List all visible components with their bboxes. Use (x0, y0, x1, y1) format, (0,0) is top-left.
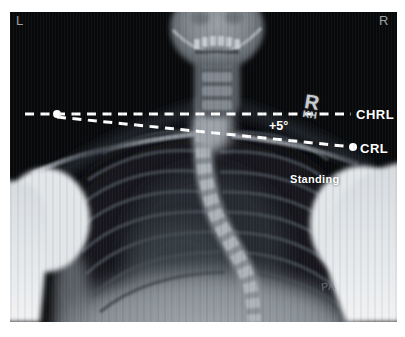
standing-stamp: Standing (290, 173, 339, 185)
left-arm (10, 180, 48, 322)
lead-marker-initials: KH (302, 109, 318, 121)
corner-marker-right: R (379, 13, 388, 28)
xray-film: L R CHRL CRL +5° R KH Standing PA (10, 12, 397, 322)
screenshot-root: { "image": { "modality": "X-ray radiogra… (0, 0, 405, 337)
crl-dot (349, 143, 357, 151)
pa-projection-stamp: PA (320, 279, 336, 292)
angle-label: +5° (269, 119, 288, 133)
chrl-label: CHRL (356, 107, 394, 122)
corner-marker-left: L (16, 13, 23, 28)
crl-label: CRL (360, 141, 388, 156)
mouth-shadow (195, 50, 239, 54)
radiograph-anatomy (10, 12, 397, 322)
